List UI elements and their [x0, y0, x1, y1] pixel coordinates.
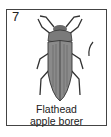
beetle-illustration-icon: [32, 13, 88, 105]
caption-line-2: apple borer: [6, 115, 107, 127]
card-number: 7: [12, 10, 19, 24]
size-scale-mark-icon: [86, 40, 96, 58]
caption-line-1: Flathead: [6, 103, 107, 115]
